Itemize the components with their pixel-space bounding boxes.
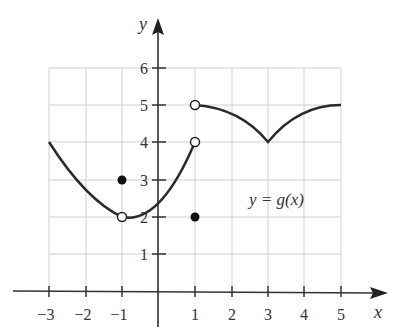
filled-point [118,176,127,185]
x-axis-label: x [373,302,382,322]
svg-text:6: 6 [140,60,148,77]
y-axis-label: y [137,14,147,34]
graph-of-g: −3 −2 −1 1 2 3 4 5 1 2 3 4 5 6 y x y = g… [0,0,406,333]
svg-text:−1: −1 [110,306,127,323]
svg-text:1: 1 [191,306,199,323]
svg-text:3: 3 [140,172,148,189]
x-tick-labels: −3 −2 −1 1 2 3 4 5 [37,306,345,323]
svg-text:−2: −2 [74,306,91,323]
svg-text:5: 5 [337,306,345,323]
open-point [191,101,200,110]
x-axis [13,287,388,299]
filled-point [191,213,200,222]
y-tick-labels: 1 2 3 4 5 6 [140,60,148,263]
open-point [118,213,127,222]
function-label: y = g(x) [247,190,304,209]
svg-text:2: 2 [228,306,236,323]
open-point [191,138,200,147]
svg-text:4: 4 [300,306,308,323]
svg-text:−3: −3 [37,306,54,323]
svg-text:3: 3 [264,306,272,323]
y-axis [152,18,164,327]
svg-text:1: 1 [140,246,148,263]
svg-text:4: 4 [140,134,148,151]
svg-text:5: 5 [140,97,148,114]
